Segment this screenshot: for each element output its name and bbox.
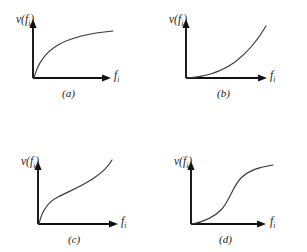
- x-axis-label-c: fi: [121, 216, 126, 230]
- panel-d: v(fi) fi (d): [153, 126, 307, 252]
- figure-panel-grid: v(fi) fi (a) v(fi) fi (b) v(fi) fi (c): [0, 0, 307, 252]
- curve-convex-b: [187, 26, 266, 78]
- curve-concave-a: [34, 31, 113, 78]
- curve-sigmoid-d: [192, 165, 273, 224]
- y-axis-label-d: v(fi): [174, 156, 192, 170]
- panel-b: v(fi) fi (b): [153, 0, 307, 126]
- panel-a: v(fi) fi (a): [0, 0, 153, 126]
- panel-c: v(fi) fi (c): [0, 126, 153, 252]
- x-axis-label-b: fi: [270, 70, 275, 84]
- y-axis-label-b: v(fi): [169, 14, 187, 28]
- y-axis-label-c: v(fi): [21, 156, 39, 170]
- x-axis-label-d: fi: [270, 216, 275, 230]
- x-axis-label-a: fi: [114, 70, 119, 84]
- x-axis-arrow-icon-d: [257, 220, 266, 227]
- panel-caption-b: (b): [217, 88, 230, 99]
- x-axis-arrow-icon-a: [102, 74, 111, 81]
- x-axis-arrow-icon-b: [258, 74, 267, 81]
- panel-caption-c: (c): [68, 234, 80, 245]
- panel-caption-d: (d): [219, 234, 232, 245]
- panel-caption-a: (a): [62, 88, 75, 99]
- x-axis-arrow-icon-c: [109, 220, 118, 227]
- y-axis-label-a: v(fi): [16, 14, 34, 28]
- curve-inverse-s-c: [39, 160, 112, 224]
